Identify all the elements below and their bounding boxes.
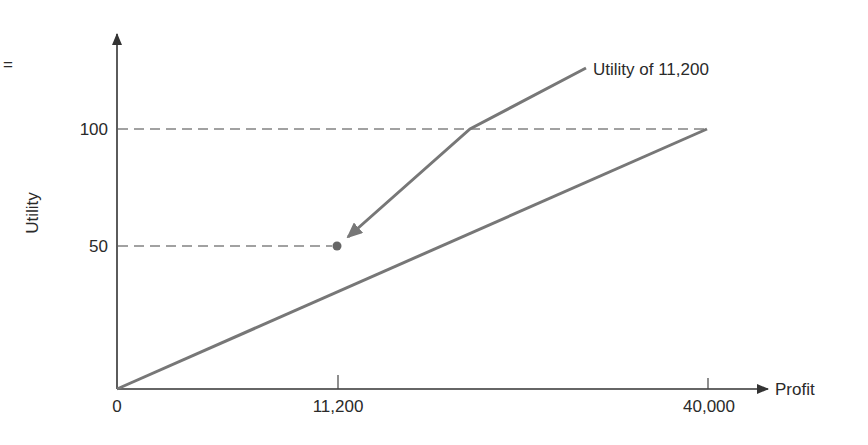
utility-line [117, 129, 707, 389]
utility-chart: = Utility of 11,200 100 50 0 11,200 40,0… [0, 0, 868, 445]
y-tick-label-100: 100 [80, 120, 108, 139]
callout-line [348, 68, 586, 237]
y-axis-label: Utility [23, 192, 42, 234]
y-tick-label-50: 50 [89, 237, 108, 256]
annotation-label: Utility of 11,200 [593, 60, 709, 79]
x-axis-label: Profit [775, 380, 815, 399]
margin-mark: = [3, 55, 13, 74]
x-tick-label-11200: 11,200 [313, 397, 364, 416]
x-tick-label-0: 0 [112, 397, 121, 416]
x-tick-label-40000: 40,000 [683, 397, 735, 416]
utility-point [333, 242, 342, 251]
